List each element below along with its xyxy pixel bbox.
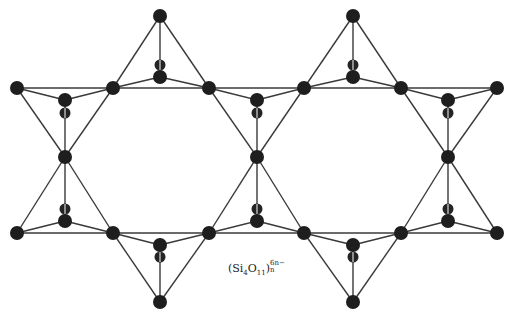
atom-mid-1 bbox=[58, 150, 72, 164]
atom-lu-c2 bbox=[250, 214, 264, 228]
atom-l-4 bbox=[394, 226, 408, 240]
bond-line bbox=[401, 157, 448, 233]
atom-u-outer-right bbox=[490, 81, 504, 95]
bond-line bbox=[304, 77, 353, 88]
bond-line bbox=[257, 157, 304, 233]
atom-l-3 bbox=[297, 226, 311, 240]
bond-line bbox=[113, 77, 160, 88]
bond-line bbox=[448, 157, 497, 233]
atom-u-outer-left bbox=[10, 81, 24, 95]
atom-u-2 bbox=[202, 81, 216, 95]
formula-n: n bbox=[270, 267, 285, 274]
atom-apex-top-2 bbox=[346, 9, 360, 23]
atom-ut-c2 bbox=[346, 70, 360, 84]
atom-ud-c3 bbox=[441, 93, 455, 107]
bond-line bbox=[65, 157, 113, 233]
atom-u-3 bbox=[297, 81, 311, 95]
bond-line bbox=[304, 16, 353, 88]
atom-apex-bot-2 bbox=[346, 295, 360, 309]
formula-label: (Si4O11)6n−n bbox=[228, 262, 285, 277]
formula-o-subscript: 11 bbox=[257, 269, 266, 277]
atom-lu-c3 bbox=[441, 214, 455, 228]
bond-line bbox=[17, 157, 65, 233]
atom-mid-2 bbox=[250, 150, 264, 164]
bond-line bbox=[353, 77, 401, 88]
atom-u-1 bbox=[106, 81, 120, 95]
atom-l-1 bbox=[106, 226, 120, 240]
atom-u-4 bbox=[394, 81, 408, 95]
atom-l-2 bbox=[202, 226, 216, 240]
atom-ud-c1 bbox=[58, 93, 72, 107]
atom-ud-c2 bbox=[250, 93, 264, 107]
atom-apex-top-1 bbox=[153, 9, 167, 23]
bond-line bbox=[353, 16, 401, 88]
atom-mid-3 bbox=[441, 150, 455, 164]
bond-line bbox=[209, 157, 257, 233]
atom-l-outer-left bbox=[10, 226, 24, 240]
formula-open: (Si bbox=[228, 262, 243, 275]
atom-ut-c1 bbox=[153, 70, 167, 84]
atom-apex-bot-1 bbox=[153, 295, 167, 309]
atom-lu-c1 bbox=[58, 214, 72, 228]
bond-line bbox=[160, 77, 209, 88]
bond-line bbox=[160, 16, 209, 88]
bond-line bbox=[113, 16, 160, 88]
formula-o: O bbox=[248, 262, 257, 275]
atom-ld-c1 bbox=[153, 238, 167, 252]
atom-l-outer-right bbox=[490, 226, 504, 240]
atom-ld-c2 bbox=[346, 238, 360, 252]
formula-scripts: 6n−n bbox=[270, 260, 285, 274]
